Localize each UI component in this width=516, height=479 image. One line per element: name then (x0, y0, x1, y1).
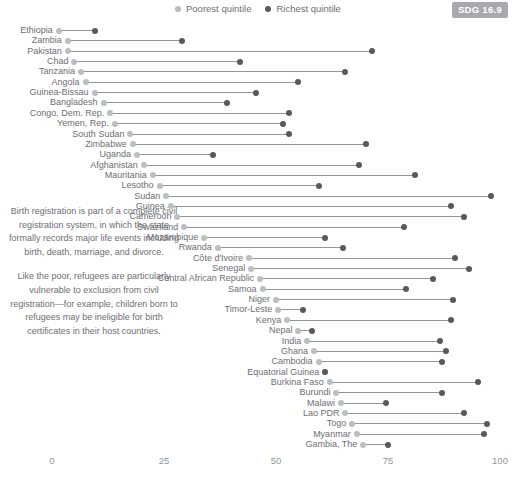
poorest-quintile-dot (327, 379, 333, 385)
poorest-quintile-dot (101, 100, 107, 106)
x-axis-tick: 100 (492, 455, 508, 466)
poorest-quintile-dot (78, 69, 84, 75)
row-connector (251, 268, 468, 269)
richest-quintile-dot (286, 110, 292, 116)
row-label-timor-leste: Timor-Leste (225, 304, 273, 315)
row-label-zambia: Zambia (32, 35, 62, 46)
poorest-quintile-dot (333, 390, 339, 396)
row-label-malawi: Malawi (307, 398, 335, 409)
row-connector (160, 185, 319, 186)
row-label-niger: Niger (248, 294, 270, 305)
poorest-quintile-dot (284, 317, 290, 323)
row-connector (287, 320, 451, 321)
richest-quintile-dot (342, 69, 348, 75)
richest-quintile-dot (439, 390, 445, 396)
chart-row: Myanmar (0, 429, 516, 440)
row-label-burkina-faso: Burkina Faso (271, 377, 324, 388)
chart-row: Mauritania (0, 170, 516, 181)
richest-quintile-dot (481, 431, 487, 437)
poorest-quintile-dot (304, 338, 310, 344)
row-connector (137, 154, 213, 155)
row-connector (345, 413, 464, 414)
richest-quintile-dot (430, 276, 436, 282)
poor-dot-icon (175, 6, 181, 12)
row-label-uganda: Uganda (100, 149, 132, 160)
annotation-paragraph-1: Birth registration is part of a complete… (8, 205, 180, 259)
chart-row: Afghanistan (0, 160, 516, 171)
row-connector (68, 40, 182, 41)
richest-quintile-dot (322, 369, 328, 375)
row-connector (104, 102, 227, 103)
row-connector (81, 71, 345, 72)
poorest-quintile-dot (65, 48, 71, 54)
row-label-gambia-the: Gambia, The (306, 439, 358, 450)
legend-item-richest: Richest quintile (265, 3, 340, 14)
richest-quintile-dot (484, 421, 490, 427)
annotation-text: Birth registration is part of a complete… (8, 205, 180, 338)
row-label-lao-pdr: Lao PDR (303, 408, 340, 419)
richest-quintile-dot (210, 152, 216, 158)
poorest-quintile-dot (342, 410, 348, 416)
chart-row: Lao PDR (0, 408, 516, 419)
poorest-quintile-dot (215, 245, 221, 251)
row-label-zimbabwe: Zimbabwe (85, 139, 127, 150)
chart-row: Zambia (0, 35, 516, 46)
richest-quintile-dot (322, 235, 328, 241)
poorest-quintile-dot (295, 328, 301, 334)
row-connector (341, 403, 386, 404)
legend-label-richest: Richest quintile (276, 3, 340, 14)
richest-quintile-dot (295, 79, 301, 85)
legend-item-poorest: Poorest quintile (175, 3, 251, 14)
richest-quintile-dot (488, 193, 494, 199)
chart-row: Uganda (0, 149, 516, 160)
richest-quintile-dot (461, 214, 467, 220)
row-connector (166, 196, 491, 197)
chart-row: South Sudan (0, 129, 516, 140)
row-label-afghanistan: Afghanistan (90, 160, 138, 171)
richest-quintile-dot (253, 90, 259, 96)
row-label-nepal: Nepal (269, 325, 293, 336)
chart-row: Malawi (0, 398, 516, 409)
richest-quintile-dot (92, 28, 98, 34)
row-connector (249, 258, 455, 259)
poorest-quintile-dot (130, 141, 136, 147)
richest-quintile-dot (448, 203, 454, 209)
richest-quintile-dot (316, 183, 322, 189)
chart-row: Guinea-Bissau (0, 87, 516, 98)
richest-quintile-dot (475, 379, 481, 385)
poorest-quintile-dot (163, 193, 169, 199)
chart-row: Yemen, Rep. (0, 118, 516, 129)
richest-quintile-dot (224, 100, 230, 106)
row-label-bangladesh: Bangladesh (50, 97, 98, 108)
poorest-quintile-dot (127, 131, 133, 137)
chart-row: Lesotho (0, 180, 516, 191)
chart-row: Burundi (0, 387, 516, 398)
poorest-quintile-dot (56, 28, 62, 34)
row-label-lesotho: Lesotho (122, 180, 154, 191)
poorest-quintile-dot (246, 255, 252, 261)
poorest-quintile-dot (354, 431, 360, 437)
row-label-rwanda: Rwanda (179, 242, 212, 253)
row-connector (307, 341, 439, 342)
richest-quintile-dot (448, 317, 454, 323)
row-connector (133, 144, 366, 145)
row-connector (330, 382, 478, 383)
row-label-tanzania: Tanzania (39, 66, 75, 77)
x-axis-tick: 50 (271, 455, 282, 466)
row-connector (177, 216, 464, 217)
x-axis-tick: 0 (49, 455, 54, 466)
chart-row: Equatorial Guinea (0, 367, 516, 378)
chart-row: Cambodia (0, 356, 516, 367)
row-label-myanmar: Myanmar (313, 429, 351, 440)
row-label-angola: Angola (52, 77, 80, 88)
poorest-quintile-dot (248, 266, 254, 272)
rich-dot-icon (265, 6, 271, 12)
chart-row: Togo (0, 418, 516, 429)
richest-quintile-dot (340, 245, 346, 251)
row-label-equatorial-guinea: Equatorial Guinea (247, 367, 319, 378)
richest-quintile-dot (461, 410, 467, 416)
row-connector (218, 247, 343, 248)
chart-row: Ghana (0, 346, 516, 357)
poorest-quintile-dot (65, 38, 71, 44)
richest-quintile-dot (450, 297, 456, 303)
